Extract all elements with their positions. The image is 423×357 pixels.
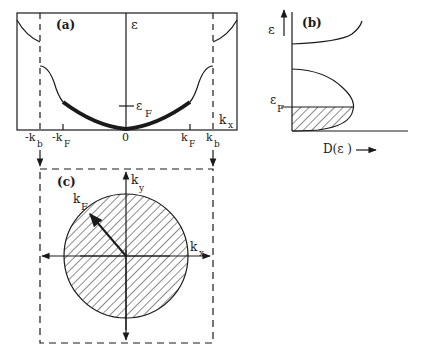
kx-label: k xyxy=(190,240,198,254)
panel-a-label: (a) xyxy=(56,18,75,32)
energy-axis-label: ε xyxy=(131,17,138,32)
upper-band-right xyxy=(213,20,237,42)
tick-label: 0 xyxy=(122,131,129,144)
panel-c: (c) k y k x k F xyxy=(40,169,213,343)
tick-label: -k xyxy=(25,131,36,144)
k-tick-labels: -k b -k F 0 k F k b xyxy=(25,131,220,149)
panel-b-label: (b) xyxy=(302,16,322,30)
dos-fermi-sub: F xyxy=(277,103,284,114)
dos-energy-label: ε xyxy=(268,22,275,37)
panel-b: (b) ε ε F D(ε ) xyxy=(268,10,408,156)
lower-band-right-edge xyxy=(190,66,213,102)
kx-axis-sub: x xyxy=(228,120,233,130)
ky-sub: y xyxy=(138,183,145,193)
occupied-dos-region xyxy=(292,107,354,131)
tick-label: -k xyxy=(52,131,63,144)
band-structure-figure: (a) ε ε F k x -k b -k F 0 k F k b (c) xyxy=(0,0,423,357)
panel-a: (a) ε ε F k x -k b -k F 0 k F k b xyxy=(17,13,237,149)
dos-fermi-label: ε xyxy=(270,93,276,107)
kx-sub: x xyxy=(199,248,204,258)
kx-axis-label: k xyxy=(219,113,227,127)
kf-sub: F xyxy=(81,201,88,212)
tick-label-sub: b xyxy=(37,139,43,149)
tick-label: k xyxy=(206,131,213,144)
lower-band-left-edge xyxy=(40,66,63,102)
panel-c-label: (c) xyxy=(57,175,76,189)
dos-axis-label: D(ε ) xyxy=(323,142,352,156)
kf-label: k xyxy=(73,192,81,206)
tick-label-sub: F xyxy=(189,139,195,149)
fermi-energy-sub: F xyxy=(145,108,152,119)
ky-label: k xyxy=(131,173,139,187)
upper-band-left xyxy=(17,20,40,42)
fermi-energy-label: ε xyxy=(136,99,142,113)
tick-label-sub: b xyxy=(214,139,220,149)
tick-label-sub: F xyxy=(64,139,70,149)
tick-label: k xyxy=(181,131,188,144)
